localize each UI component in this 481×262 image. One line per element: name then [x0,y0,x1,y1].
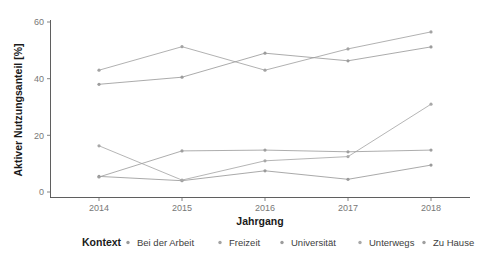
data-point [346,59,349,62]
legend-point-marker [358,241,361,244]
data-point [429,149,432,152]
x-axis-title: Jahrgang [236,215,283,227]
data-point [97,175,100,178]
y-tick-label-60: 60 [34,17,44,27]
data-point [180,149,183,152]
x-tick-label-2016: 2016 [255,203,275,213]
legend-item-1[interactable]: Bei der Arbeit [126,237,194,248]
legend-item-label: Bei der Arbeit [137,237,194,248]
legend-item-label: Universität [291,237,336,248]
data-point [180,45,183,48]
data-point [263,169,266,172]
data-point [429,30,432,33]
data-point [429,45,432,48]
x-tick-label-2017: 2017 [338,203,358,213]
data-point [97,83,100,86]
y-tick-label-0: 0 [39,187,44,197]
legend-point-marker [422,241,425,244]
legend-item-label: Unterwegs [369,237,415,248]
data-point [346,47,349,50]
legend-point-marker [126,241,129,244]
legend-item-label: Freizeit [229,237,261,248]
y-tick-label-20: 20 [34,131,44,141]
x-tick-label-2018: 2018 [421,203,441,213]
x-tick-label-2014: 2014 [89,203,109,213]
y-tick-label-40: 40 [34,74,44,84]
data-point [263,149,266,152]
legend-title: Kontext [82,236,122,248]
chart-canvas: 0 20 40 60 2014 2015 2016 2017 2018 Akti… [0,0,481,262]
legend-item-label: Zu Hause [433,237,474,248]
line-chart-figure: 0 20 40 60 2014 2015 2016 2017 2018 Akti… [0,0,481,262]
data-point [97,69,100,72]
data-point [263,52,266,55]
x-tick-label-2015: 2015 [172,203,192,213]
data-point [263,69,266,72]
data-point [429,164,432,167]
data-point [97,144,100,147]
data-point [346,178,349,181]
data-point [180,179,183,182]
data-point [346,155,349,158]
legend-point-marker [280,241,283,244]
data-point [180,76,183,79]
data-point [429,103,432,106]
data-point [263,159,266,162]
data-point [346,150,349,153]
y-axis-title: Aktiver Nutzungsanteil [%] [12,43,24,176]
legend-point-marker [218,241,221,244]
